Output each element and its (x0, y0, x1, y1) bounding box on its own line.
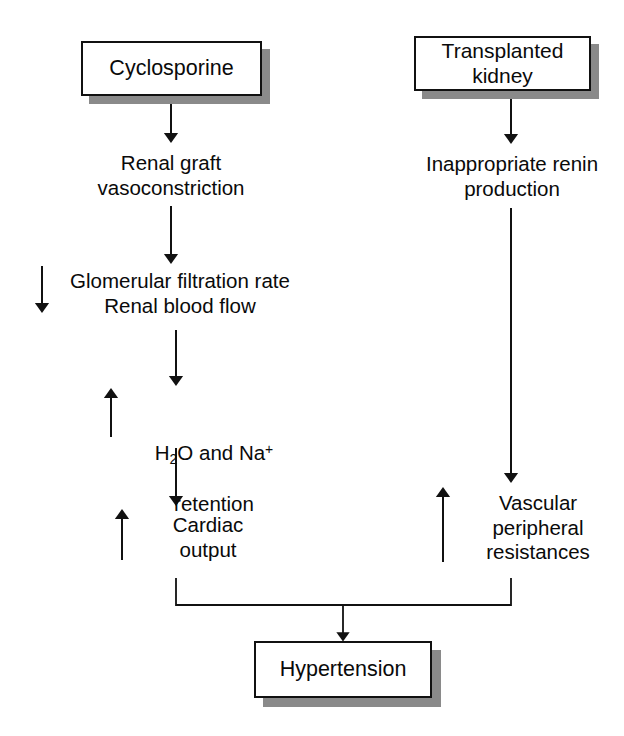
node-cardiac-output: Cardiac output (136, 513, 280, 562)
node-gfr-renal-blood-flow: Glomerular filtration rate Renal blood f… (55, 269, 305, 318)
node-hypertension[interactable]: Hypertension (254, 641, 432, 698)
connector-layer (0, 0, 624, 736)
change-arrow-layer (0, 0, 624, 736)
node-transplanted-kidney[interactable]: Transplanted kidney (414, 36, 591, 91)
node-vascular-peripheral-resistances: Vascular peripheral resistances (457, 491, 619, 565)
node-renal-graft-vasoconstriction: Renal graft vasoconstriction (61, 151, 281, 200)
diagram-canvas: Cyclosporine Transplanted kidney Renal g… (0, 0, 624, 736)
node-transplanted-kidney-label: Transplanted kidney (416, 39, 589, 89)
node-hypertension-label: Hypertension (280, 657, 407, 682)
node-inappropriate-renin-production: Inappropriate renin production (396, 152, 624, 201)
node-cyclosporine[interactable]: Cyclosporine (81, 41, 262, 96)
edge-merge-left (176, 578, 343, 605)
water-sodium-retention-line1: H2O and Na+ (124, 417, 304, 468)
edge-merge-right (343, 578, 511, 605)
node-cyclosporine-label: Cyclosporine (109, 56, 233, 81)
